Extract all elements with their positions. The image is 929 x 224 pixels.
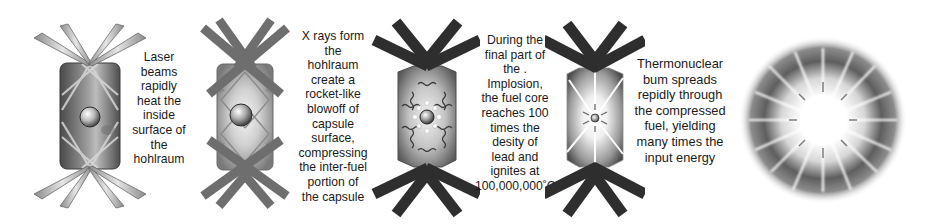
fusion-sequence-diagram: Laser beams rapidly heat the inside surf…: [0, 0, 929, 224]
stage-5: [735, 0, 929, 224]
hohlraum-xray-blowoff-illustration: [195, 0, 305, 224]
stage-1: Laser beams rapidly heat the inside surf…: [0, 0, 200, 224]
stage-3-caption: During the final part of the . Implosion…: [475, 33, 555, 194]
stage-2: X rays form the hohlraum create a rocket…: [195, 0, 375, 224]
stage-2-caption: X rays form the hohlraum create a rocket…: [295, 29, 371, 204]
stage-4-caption: Thermonuclear bum spreads repidly throug…: [629, 56, 731, 165]
hohlraum-implosion-illustration: [370, 0, 480, 224]
fusion-starburst-illustration: [735, 0, 929, 224]
stage-4: Thermonuclear bum spreads repidly throug…: [545, 0, 735, 224]
stage-3: During the final part of the . Implosion…: [370, 0, 560, 224]
stage-1-caption: Laser beams rapidly heat the inside surf…: [128, 50, 190, 167]
